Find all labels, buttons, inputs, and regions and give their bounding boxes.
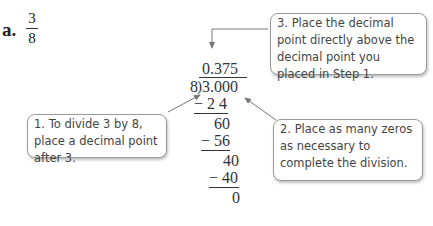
arrow-step1 xyxy=(168,95,200,112)
arrow-step2 xyxy=(245,98,276,120)
callout-step3: 3. Place the decimal point directly abov… xyxy=(270,13,427,75)
arrow-step3 xyxy=(212,29,268,48)
callout-step2: 2. Place as many zeros as necessary to c… xyxy=(273,119,423,181)
callout-step1: 1. To divide 3 by 8, place a decimal poi… xyxy=(27,114,167,158)
